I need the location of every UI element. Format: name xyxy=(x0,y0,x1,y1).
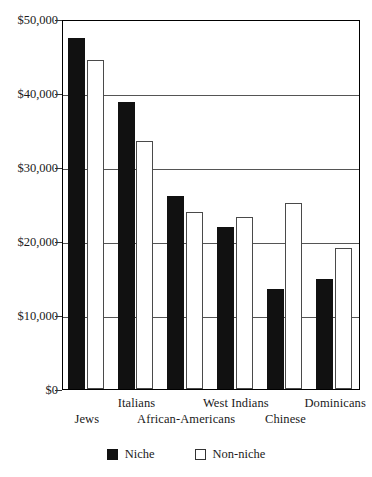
bar-chart-figure: $50,000$40,000$30,000$20,000$10,000$0 Je… xyxy=(0,0,372,477)
x-axis-tick-label: Jews xyxy=(74,412,99,427)
bar-non-niche xyxy=(335,248,352,389)
bar-niche xyxy=(267,289,284,389)
legend-item: Non-niche xyxy=(195,448,266,461)
x-axis-tick-label: Dominicans xyxy=(304,396,365,411)
bar-non-niche xyxy=(87,60,104,389)
bar-niche xyxy=(167,196,184,389)
legend-label: Niche xyxy=(125,448,155,461)
y-axis-tick-label: $50,000 xyxy=(0,13,58,28)
y-axis-tick-mark xyxy=(55,242,62,243)
bar-non-niche xyxy=(236,217,253,389)
bar-niche xyxy=(316,279,333,389)
y-axis-tick-label: $10,000 xyxy=(0,309,58,324)
y-axis-tick-mark xyxy=(55,94,62,95)
y-axis-tick-mark xyxy=(55,390,62,391)
bar-niche xyxy=(68,38,85,390)
bar-series-container xyxy=(63,21,359,389)
chart-legend: NicheNon-niche xyxy=(0,448,372,461)
y-axis-tick-label: $40,000 xyxy=(0,87,58,102)
bar-niche xyxy=(217,227,234,389)
bar-non-niche xyxy=(186,212,203,389)
x-axis-tick-label: African-Americans xyxy=(137,412,235,427)
x-axis-tick-label: Italians xyxy=(118,396,156,411)
legend-swatch-non-niche-icon xyxy=(195,449,206,460)
y-axis-tick-mark xyxy=(55,20,62,21)
y-axis-tick-label: $20,000 xyxy=(0,235,58,250)
x-axis-tick-label: Chinese xyxy=(265,412,306,427)
y-axis-tick-label: $0 xyxy=(0,383,58,398)
bar-niche xyxy=(118,102,135,389)
legend-swatch-niche-icon xyxy=(107,449,118,460)
x-axis-tick-label: West Indians xyxy=(203,396,269,411)
bar-non-niche xyxy=(285,203,302,389)
y-axis-tick-label: $30,000 xyxy=(0,161,58,176)
legend-item: Niche xyxy=(107,448,155,461)
plot-area xyxy=(62,20,360,390)
bar-non-niche xyxy=(136,141,153,389)
y-axis-tick-mark xyxy=(55,168,62,169)
legend-label: Non-niche xyxy=(213,448,266,461)
y-axis-tick-mark xyxy=(55,316,62,317)
